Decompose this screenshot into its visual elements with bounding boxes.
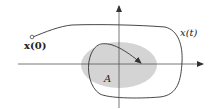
region-label: A: [103, 73, 111, 84]
initial-state-label: x(0): [24, 40, 46, 51]
initial-state-point: [30, 35, 34, 39]
trajectory-label: x(t): [180, 27, 198, 38]
phase-portrait: x(0) x(t) A: [0, 0, 215, 109]
